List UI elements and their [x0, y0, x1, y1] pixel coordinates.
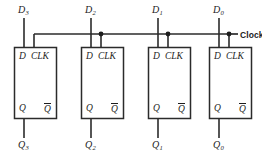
signal-label-q2-sub: 2	[93, 144, 96, 151]
port-label-qbar-ff3-text: Q	[44, 103, 51, 114]
port-label-q-ff1: Q	[153, 104, 160, 114]
port-label-clk-ff2: CLK	[98, 52, 116, 62]
circuit-diagram: D3 D2 D1 D0 Clock D CLK Q Q D CLK Q Q D …	[0, 0, 262, 157]
port-label-q-ff0: Q	[214, 104, 221, 114]
signal-label-d3: D3	[18, 5, 29, 15]
signal-label-q0-base: Q	[213, 139, 220, 150]
port-label-d-ff1: D	[153, 52, 160, 62]
port-label-qbar-ff1-text: Q	[178, 103, 185, 114]
clock-label: Clock	[240, 30, 262, 40]
signal-label-q1: Q1	[152, 140, 163, 150]
signal-label-d2: D2	[85, 5, 96, 15]
signal-label-d1: D1	[152, 5, 163, 15]
signal-label-d3-base: D	[18, 4, 25, 15]
signal-label-q3: Q3	[18, 140, 29, 150]
port-label-qbar-ff3: Q	[44, 103, 51, 114]
port-label-qbar-ff0: Q	[239, 103, 246, 114]
junction-dot-clk0	[227, 32, 232, 37]
signal-label-d0: D0	[213, 5, 224, 15]
port-label-d-ff0: D	[214, 52, 221, 62]
port-label-clk-ff3: CLK	[31, 52, 49, 62]
port-label-clk-ff1: CLK	[165, 52, 183, 62]
signal-label-d0-sub: 0	[221, 9, 224, 16]
signal-label-q2-base: Q	[85, 139, 92, 150]
junction-dot-clk1	[166, 32, 171, 37]
signal-label-q3-base: Q	[18, 139, 25, 150]
port-label-qbar-ff2-text: Q	[111, 103, 118, 114]
port-label-qbar-ff2: Q	[111, 103, 118, 114]
port-label-d-ff3: D	[19, 52, 26, 62]
signal-label-q1-base: Q	[152, 139, 159, 150]
signal-label-q2: Q2	[85, 140, 96, 150]
signal-label-d2-base: D	[85, 4, 92, 15]
signal-label-d0-base: D	[213, 4, 220, 15]
signal-label-d2-sub: 2	[93, 9, 96, 16]
signal-label-d1-base: D	[152, 4, 159, 15]
port-label-d-ff2: D	[86, 52, 93, 62]
port-label-qbar-ff0-text: Q	[239, 103, 246, 114]
port-label-qbar-ff1: Q	[178, 103, 185, 114]
signal-label-q1-sub: 1	[160, 144, 163, 151]
port-label-q-ff2: Q	[86, 104, 93, 114]
circuit-svg	[0, 0, 262, 157]
signal-label-q3-sub: 3	[26, 144, 29, 151]
junction-dot-clk2	[99, 32, 104, 37]
signal-label-d1-sub: 1	[160, 9, 163, 16]
signal-label-q0: Q0	[213, 140, 224, 150]
signal-label-q0-sub: 0	[221, 144, 224, 151]
signal-label-d3-sub: 3	[26, 9, 29, 16]
port-label-q-ff3: Q	[19, 104, 26, 114]
port-label-clk-ff0: CLK	[226, 52, 244, 62]
